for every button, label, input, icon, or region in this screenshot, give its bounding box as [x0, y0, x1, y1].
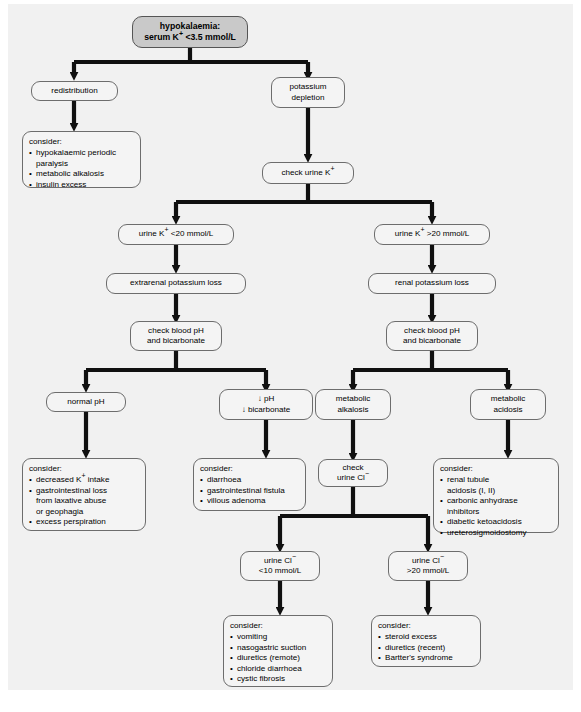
node-urine-k-high-label: urine K+ >20 mmol/L [390, 229, 475, 240]
list-item: vomiting [230, 632, 306, 643]
node-check-blood-ph-right: check blood pH and bicarbonate [386, 321, 478, 351]
node-check-urine-k-label: check urine K+ [276, 168, 339, 179]
node-check-blood-ph-left: check blood pH and bicarbonate [130, 321, 222, 351]
node-redistribution-label: redistribution [46, 86, 102, 97]
list-item: chloride diarrhoea [230, 664, 306, 675]
node-check-urine-cl-line1: check [337, 463, 368, 474]
node-extrarenal-potassium-loss-label: extrarenal potassium loss [125, 278, 227, 289]
node-consider-metabolic-acidosis: consider: renal tubuleacidosis (I, II) c… [433, 458, 559, 533]
node-low-ph-line1: ↓ pH [253, 394, 280, 405]
node-urine-k-low-label: urine K+ <20 mmol/L [134, 229, 219, 240]
node-normal-ph: normal pH [46, 392, 126, 412]
node-metabolic-acidosis-line1: metabolic [486, 394, 531, 405]
node-low-ph: ↓ pH ↓ bicarbonate [219, 389, 313, 420]
list-item: hypokalaemic periodicparalysis [29, 148, 116, 169]
node-check-blood-ph-right-line1: check blood pH [399, 326, 465, 337]
list-item: diuretics (remote) [230, 653, 306, 664]
node-urine-k-high: urine K+ >20 mmol/L [374, 224, 490, 245]
list-item: Bartter's syndrome [378, 653, 453, 664]
list-item: metabolic alkalosis [29, 169, 116, 180]
node-normal-ph-label: normal pH [62, 397, 109, 408]
node-hypokalaemia-root-line2: serum K+ <3.5 mmol/L [139, 32, 241, 44]
consider-metabolic-acidosis-list: renal tubuleacidosis (I, II) carbonic an… [440, 475, 527, 539]
node-consider-redistribution: consider: hypokalaemic periodicparalysis… [22, 131, 141, 188]
list-item: steroid excess [378, 632, 453, 643]
figure-page: hypokalaemia: serum K+ <3.5 mmol/L redis… [0, 0, 581, 712]
node-check-blood-ph-left-line2: and bicarbonate [142, 336, 210, 347]
node-consider-urine-cl-low: consider: vomiting nasogastric suction d… [223, 615, 333, 687]
list-item: nasogastric suction [230, 643, 306, 654]
node-urine-cl-high-line2: >20 mmol/L [402, 566, 455, 577]
consider-low-ph-list: diarrhoea gastrointestinal fistula villo… [200, 475, 285, 507]
node-check-blood-ph-left-line1: check blood pH [143, 326, 209, 337]
node-urine-cl-low: urine Cl− <10 mmol/L [240, 551, 320, 581]
node-urine-cl-high: urine Cl− >20 mmol/L [388, 551, 468, 581]
node-extrarenal-potassium-loss: extrarenal potassium loss [106, 273, 246, 294]
node-metabolic-acidosis: metabolic acidosis [470, 389, 546, 420]
node-metabolic-alkalosis-line1: metabolic [331, 394, 376, 405]
list-item: insulin excess [29, 180, 116, 191]
node-hypokalaemia-root-line1: hypokalaemia: [155, 21, 225, 33]
node-metabolic-alkalosis: metabolic alkalosis [315, 389, 391, 420]
node-potassium-depletion: potassium depletion [271, 77, 345, 108]
consider-urine-cl-high-list: steroid excess diuretics (recent) Bartte… [378, 632, 453, 664]
flowchart-canvas: hypokalaemia: serum K+ <3.5 mmol/L redis… [8, 4, 573, 690]
node-renal-potassium-loss: renal potassium loss [368, 273, 496, 294]
list-item: gastrointestinal fistula [200, 486, 285, 497]
node-check-blood-ph-right-line2: and bicarbonate [398, 336, 466, 347]
node-potassium-depletion-line1: potassium [285, 82, 332, 93]
consider-normal-ph-list: decreased K+ intake gastrointestinal los… [29, 475, 109, 528]
node-consider-low-ph: consider: diarrhoea gastrointestinal fis… [193, 458, 306, 511]
node-check-urine-k: check urine K+ [262, 162, 354, 184]
consider-urine-cl-high-heading: consider: [378, 621, 411, 632]
node-urine-k-low: urine K+ <20 mmol/L [118, 224, 234, 245]
consider-urine-cl-low-heading: consider: [230, 621, 263, 632]
node-check-urine-cl-line2: urine Cl− [332, 473, 374, 484]
list-item: excess perspiration [29, 517, 109, 528]
node-consider-urine-cl-high: consider: steroid excess diuretics (rece… [371, 615, 481, 667]
consider-redistribution-heading: consider: [29, 137, 62, 148]
consider-urine-cl-low-list: vomiting nasogastric suction diuretics (… [230, 632, 306, 685]
node-urine-cl-high-line1: urine Cl− [407, 556, 449, 567]
node-consider-normal-ph: consider: decreased K+ intake gastrointe… [22, 458, 146, 531]
node-check-urine-cl: check urine Cl− [318, 459, 388, 487]
node-renal-potassium-loss-label: renal potassium loss [390, 278, 474, 289]
list-item: carbonic anhydraseinhibitors [440, 496, 527, 517]
list-item: diabetic ketoacidosis [440, 517, 527, 528]
node-redistribution: redistribution [31, 81, 118, 101]
node-urine-cl-low-line2: <10 mmol/L [254, 566, 307, 577]
list-item: diuretics (recent) [378, 643, 453, 654]
consider-redistribution-list: hypokalaemic periodicparalysis metabolic… [29, 148, 116, 190]
list-item: cystic fibrosis [230, 674, 306, 685]
list-item: diarrhoea [200, 475, 285, 486]
node-hypokalaemia-root: hypokalaemia: serum K+ <3.5 mmol/L [132, 16, 248, 48]
list-item: decreased K+ intake [29, 475, 109, 486]
node-low-ph-line2: ↓ bicarbonate [237, 405, 296, 416]
node-metabolic-alkalosis-line2: alkalosis [332, 405, 373, 416]
list-item: ureterosigmoidostomy [440, 528, 527, 539]
list-item: renal tubuleacidosis (I, II) [440, 475, 527, 496]
list-item: villous adenoma [200, 496, 285, 507]
consider-low-ph-heading: consider: [200, 464, 233, 475]
consider-normal-ph-heading: consider: [29, 464, 62, 475]
node-potassium-depletion-line2: depletion [287, 93, 330, 104]
list-item: gastrointestinal lossfrom laxative abuse… [29, 486, 109, 518]
consider-metabolic-acidosis-heading: consider: [440, 464, 473, 475]
node-urine-cl-low-line1: urine Cl− [259, 556, 301, 567]
node-metabolic-acidosis-line2: acidosis [488, 405, 527, 416]
